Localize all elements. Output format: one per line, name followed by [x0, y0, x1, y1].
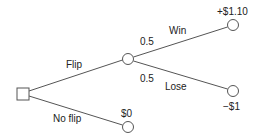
- no-flip-payoff: $0: [121, 108, 133, 119]
- lose-label: Lose: [165, 81, 187, 92]
- win-outcome-node: [228, 20, 239, 31]
- win-label: Win: [169, 25, 186, 36]
- no-flip-label: No flip: [53, 113, 82, 124]
- decision-node: [17, 88, 29, 100]
- win-probability: 0.5: [140, 36, 154, 47]
- lose-outcome-node: [228, 86, 239, 97]
- lose-probability: 0.5: [140, 73, 154, 84]
- decision-tree-diagram: Flip No flip Win 0.5 0.5 Lose +$1.10 −$1…: [0, 0, 262, 139]
- chance-node: [123, 54, 134, 65]
- no-flip-outcome-node: [123, 122, 134, 133]
- win-payoff: +$1.10: [217, 6, 248, 17]
- flip-label: Flip: [66, 59, 83, 70]
- lose-payoff: −$1: [223, 101, 240, 112]
